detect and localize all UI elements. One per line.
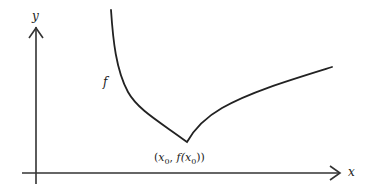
function-curve — [111, 10, 332, 142]
diagram-canvas: y x f (x0, f(x0)) — [0, 0, 371, 193]
x-axis — [22, 166, 340, 180]
y-axis — [29, 27, 43, 184]
separator: , — [170, 151, 177, 164]
x-axis-label: x — [348, 165, 355, 179]
cusp-point-label: (x0, f(x0)) — [154, 151, 205, 166]
paren-close: )) — [196, 151, 205, 164]
curve-label: f — [102, 75, 110, 89]
y-axis-label: y — [31, 9, 39, 23]
